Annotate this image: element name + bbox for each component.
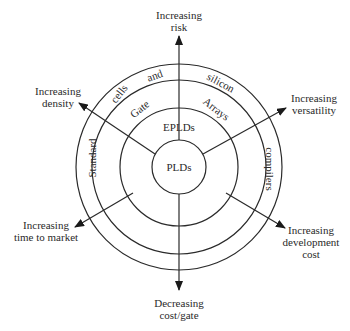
svg-text:Increasing: Increasing — [35, 85, 81, 97]
label-development-cost: Increasing development cost — [283, 224, 340, 260]
svg-text:Increasing: Increasing — [23, 219, 69, 231]
svg-text:development: development — [283, 236, 340, 248]
cells-label: cells — [108, 82, 130, 105]
svg-text:Increasing: Increasing — [288, 224, 334, 236]
label-time-to-market: Increasing time to market — [14, 219, 78, 243]
plds-label: PLDs — [166, 161, 191, 173]
svg-text:density: density — [42, 97, 74, 109]
svg-text:cost: cost — [302, 248, 320, 260]
eplds-label: EPLDs — [163, 121, 195, 133]
svg-text:risk: risk — [171, 21, 188, 33]
label-cost-gate: Decreasing cost/gate — [154, 297, 204, 321]
label-risk: Increasing risk — [156, 9, 202, 33]
device-spectrum-diagram: PLDs EPLDs Gate Arrays Standard cells an… — [0, 0, 350, 331]
svg-text:Decreasing: Decreasing — [154, 297, 204, 309]
svg-text:Increasing: Increasing — [291, 92, 337, 104]
standard-label: Standard — [86, 138, 98, 178]
arrow-development-cost — [226, 193, 285, 228]
svg-text:cost/gate: cost/gate — [159, 309, 198, 321]
svg-text:versatility: versatility — [292, 104, 336, 116]
svg-text:time to market: time to market — [14, 231, 78, 243]
compilers-label: compilers — [264, 147, 276, 190]
arrays-label: Arrays — [201, 95, 232, 123]
arrow-time-to-market — [75, 193, 133, 227]
svg-text:Increasing: Increasing — [156, 9, 202, 21]
label-density: Increasing density — [35, 85, 81, 109]
label-versatility: Increasing versatility — [291, 92, 337, 116]
